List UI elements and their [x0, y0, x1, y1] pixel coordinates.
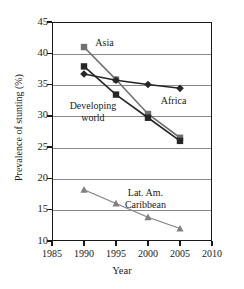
- data-point: [176, 85, 184, 93]
- series-layer: [0, 0, 244, 289]
- series-asia: [81, 44, 183, 141]
- chart-figure: Prevalence of stunting (%) Year 10152025…: [0, 0, 244, 289]
- series-label-lat-am-caribbean: Lat. Am. Caribbean: [125, 187, 166, 210]
- series-label-developing-world: Developing world: [70, 100, 117, 123]
- data-point: [81, 44, 87, 50]
- data-point: [144, 81, 152, 89]
- series-label-africa: Africa: [161, 95, 187, 107]
- data-point: [176, 225, 183, 232]
- series-line: [84, 47, 180, 138]
- data-point: [80, 186, 87, 193]
- data-point: [81, 63, 87, 69]
- data-point: [113, 91, 119, 97]
- data-point: [112, 200, 119, 207]
- series-label-asia: Asia: [95, 37, 113, 49]
- series-africa: [80, 70, 184, 92]
- data-point: [145, 115, 151, 121]
- data-point: [80, 70, 88, 78]
- data-point: [177, 138, 183, 144]
- series-line: [84, 74, 180, 88]
- data-point: [144, 214, 151, 221]
